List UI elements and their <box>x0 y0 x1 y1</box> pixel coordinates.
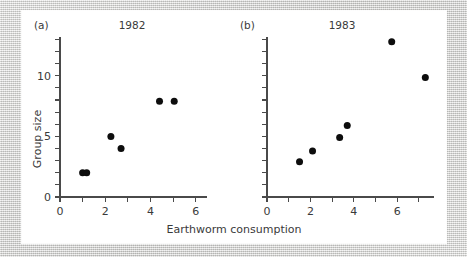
panel-a-tag: (a) <box>34 19 49 31</box>
data-point <box>156 98 163 105</box>
x-tick-label: 2 <box>307 205 314 218</box>
panel-a-axes: 02460510 <box>37 37 207 218</box>
panel-b: (b) 1983 0246 <box>240 19 434 218</box>
x-tick-label: 2 <box>102 205 109 218</box>
data-point <box>422 74 429 81</box>
data-point <box>336 134 343 141</box>
y-tick-label: 5 <box>44 130 51 143</box>
data-point <box>171 98 178 105</box>
x-tick-label: 6 <box>192 205 199 218</box>
data-point <box>107 133 114 140</box>
panel-b-tag: (b) <box>240 19 255 31</box>
x-tick-label: 0 <box>57 205 64 218</box>
y-tick-label: 10 <box>37 70 51 83</box>
data-point <box>83 169 90 176</box>
y-axis-label: Group size <box>31 110 44 169</box>
scatter-figure: (a) 1982 02460510 Group size (b) 1983 02… <box>22 11 446 243</box>
data-point <box>388 38 395 45</box>
panel-a-data-points <box>79 98 178 177</box>
figure-card: (a) 1982 02460510 Group size (b) 1983 02… <box>22 11 446 243</box>
data-point <box>309 147 316 154</box>
x-tick-label: 4 <box>147 205 154 218</box>
x-tick-label: 6 <box>394 205 401 218</box>
y-tick-label: 0 <box>44 191 51 204</box>
panel-b-data-points <box>296 38 429 165</box>
data-point <box>344 122 351 129</box>
panel-a-title: 1982 <box>119 19 146 31</box>
panel-b-title: 1983 <box>329 19 356 31</box>
data-point <box>296 158 303 165</box>
x-tick-label: 0 <box>264 205 271 218</box>
x-axis-label: Earthworm consumption <box>167 223 302 236</box>
x-tick-label: 4 <box>350 205 357 218</box>
data-point <box>118 145 125 152</box>
panel-a: (a) 1982 02460510 Group size <box>31 19 207 218</box>
